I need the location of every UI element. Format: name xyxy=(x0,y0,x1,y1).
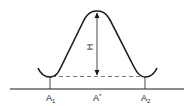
label-a2: A2 xyxy=(141,93,151,104)
label-a-star: A* xyxy=(93,93,102,103)
height-arrow xyxy=(95,13,100,76)
energy-barrier-diagram: H A1 A* A2 xyxy=(0,0,194,106)
arrowhead-up-icon xyxy=(95,13,100,19)
height-label: H xyxy=(85,44,95,51)
label-a1: A1 xyxy=(46,93,56,104)
barrier-curve xyxy=(38,11,157,77)
arrowhead-down-icon xyxy=(95,70,100,76)
